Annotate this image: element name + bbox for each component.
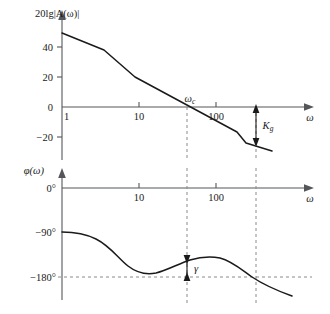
phase-y-axis-title: φ(ω) [24, 165, 45, 177]
phase-x-label-100: 100 [208, 192, 224, 203]
phase-panel: 10 100 0° −90° −180° φ(ω) ω γ [24, 165, 314, 305]
bode-plot-figure: 40 20 0 −20 1 10 100 20lg|A(ω)| ω ωc [0, 0, 330, 314]
magnitude-x-ticks [139, 102, 216, 107]
phase-x-ticks [139, 183, 216, 188]
gain-margin-label: Kg [262, 120, 274, 133]
magnitude-x-label-1: 1 [64, 111, 69, 122]
phase-x-axis [62, 184, 314, 192]
magnitude-y-label-0: 0 [48, 102, 53, 113]
magnitude-y-ticks [57, 47, 62, 137]
magnitude-x-label-10: 10 [134, 111, 145, 122]
phase-y-label-minus90: −90° [35, 227, 56, 238]
phase-margin-label: γ [194, 263, 199, 274]
bode-plot-svg: 40 20 0 −20 1 10 100 20lg|A(ω)| ω ωc [0, 0, 330, 314]
phase-y-label-0: 0° [47, 183, 56, 194]
magnitude-x-axis-arrowhead [304, 103, 314, 111]
magnitude-y-label-minus20: −20 [37, 132, 53, 143]
magnitude-panel: 40 20 0 −20 1 10 100 20lg|A(ω)| ω ωc [35, 8, 314, 160]
gain-margin-arrow [253, 104, 260, 147]
phase-x-axis-arrowhead [304, 184, 314, 192]
phase-x-axis-title: ω [306, 193, 313, 204]
phase-curve [62, 232, 292, 296]
phase-y-axis-arrowhead [58, 168, 66, 178]
magnitude-y-axis-title: 20lg|A(ω)| [35, 8, 79, 20]
gain-margin-arrowhead-up [253, 104, 260, 113]
magnitude-x-axis-title: ω [306, 112, 313, 123]
magnitude-x-axis [62, 103, 314, 111]
magnitude-y-label-40: 40 [43, 42, 54, 53]
phase-x-label-10: 10 [134, 192, 145, 203]
magnitude-curve [62, 33, 272, 151]
magnitude-y-label-20: 20 [43, 72, 54, 83]
phase-y-label-minus180: −180° [30, 272, 56, 283]
